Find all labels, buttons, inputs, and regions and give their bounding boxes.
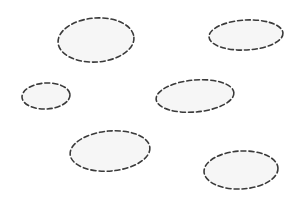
ellipse-4 <box>155 77 235 116</box>
ellipse-1 <box>57 15 136 64</box>
ellipse-5 <box>68 128 151 175</box>
ellipse-2 <box>208 18 283 52</box>
ellipse-6 <box>203 149 279 191</box>
ellipse-layer <box>0 0 299 202</box>
ellipse-3 <box>21 82 70 110</box>
drawing-canvas <box>0 0 299 202</box>
